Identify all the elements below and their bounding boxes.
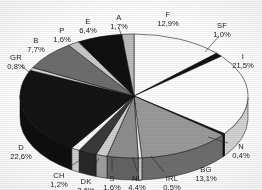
slice-label-value-CH: 1,2% [50, 180, 68, 189]
pie-slice-side-N [223, 134, 225, 157]
slice-label-value-DK: 2,6% [77, 186, 95, 190]
slice-label-value-N: 0,4% [232, 151, 250, 160]
slice-label-name-P: P [59, 26, 64, 35]
slice-label-value-SF: 1,0% [213, 30, 231, 39]
slice-label-name-DK: DK [81, 177, 92, 186]
slice-label-value-IRL: 0,5% [163, 183, 181, 190]
slice-label-name-E: E [85, 17, 90, 26]
slice-label-value-B: 7,7% [27, 45, 45, 54]
slice-label-value-A: 1,7% [110, 22, 128, 31]
slice-label-value-GR: 0,8% [7, 62, 25, 71]
slice-label-value-S: 1,6% [103, 183, 121, 190]
slice-label-value-E: 6,4% [79, 26, 97, 35]
slice-label-name-GR: GR [10, 53, 22, 62]
slice-label-name-B: B [33, 36, 38, 45]
slice-label-name-CH: CH [53, 171, 64, 180]
pie-slice-side-CH [72, 148, 79, 172]
slice-label-name-S: S [109, 174, 114, 183]
slice-label-name-NL: NL [132, 174, 142, 183]
slice-label-name-I: I [242, 52, 244, 61]
slice-label-name-A: A [116, 13, 122, 22]
pie-chart-svg: F12,9%SF1,0%I21,5%N0,4%BG13,1%IRL0,5%NL4… [0, 0, 262, 190]
pie-slices-group [20, 34, 248, 158]
pie-slice-side-DK [79, 150, 96, 176]
slice-label-value-NL: 4,4% [128, 183, 146, 190]
slice-label-name-IRL: IRL [166, 174, 178, 183]
slice-label-value-I: 21,5% [232, 61, 254, 70]
pie-chart-figure: F12,9%SF1,0%I21,5%N0,4%BG13,1%IRL0,5%NL4… [0, 0, 262, 190]
slice-label-value-P: 1,6% [53, 35, 71, 44]
pie-slice-side-S [96, 154, 107, 178]
slice-label-name-BG: BG [200, 165, 211, 174]
slice-label-name-SF: SF [217, 21, 227, 30]
slice-label-name-N: N [238, 142, 244, 151]
slice-label-value-D: 22,6% [10, 152, 32, 161]
slice-label-value-F: 12,9% [157, 19, 179, 28]
slice-label-name-F: F [166, 10, 171, 19]
slice-label-value-BG: 13,1% [195, 174, 217, 183]
slice-label-name-D: D [18, 143, 24, 152]
